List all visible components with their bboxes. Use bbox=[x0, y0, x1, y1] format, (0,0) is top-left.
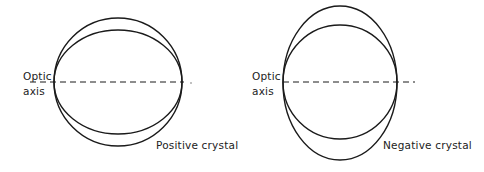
negative-crystal-figure bbox=[283, 6, 415, 160]
stray-dot bbox=[190, 82, 191, 83]
caption-negative: Negative crystal bbox=[383, 139, 472, 151]
sphere-wavefront bbox=[283, 25, 397, 139]
axis-label-left: axis bbox=[23, 85, 45, 97]
ellipsoid-wavefront bbox=[283, 6, 397, 160]
caption-positive: Positive crystal bbox=[156, 139, 238, 151]
optic-label-right: Optic bbox=[252, 70, 281, 82]
positive-crystal-figure bbox=[30, 18, 192, 146]
optic-label-left: Optic bbox=[23, 70, 52, 82]
axis-label-right: axis bbox=[252, 85, 274, 97]
